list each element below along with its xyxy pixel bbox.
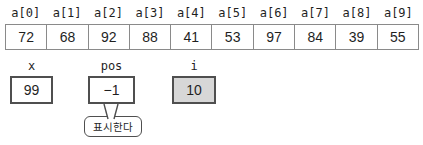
array-index-labels: a[0] a[1] a[2] a[3] a[4] a[5] a[6] a[7] … [5, 5, 419, 21]
variable-box-pos: −1 [88, 76, 135, 104]
array-index-label: a[6] [253, 5, 294, 21]
variable-label-i: i [172, 59, 216, 74]
array-cell: 97 [253, 25, 294, 49]
array-index-label: a[5] [212, 5, 253, 21]
callout-tail [99, 104, 123, 120]
array-cell: 53 [211, 25, 252, 49]
variable-value-i: 10 [186, 82, 202, 98]
array-index-label: a[9] [378, 5, 419, 21]
array-cell: 41 [170, 25, 211, 49]
array-cell: 92 [88, 25, 129, 49]
callout-text: 표시한다 [93, 119, 133, 134]
array-cell: 55 [377, 25, 418, 49]
array-cell: 84 [294, 25, 335, 49]
array-index-label: a[3] [129, 5, 170, 21]
variable-label-x: x [10, 59, 53, 74]
array-cell: 39 [335, 25, 376, 49]
array-search-diagram: a[0] a[1] a[2] a[3] a[4] a[5] a[6] a[7] … [0, 0, 423, 145]
variable-box-i: 10 [172, 76, 216, 104]
array-cell: 72 [6, 25, 46, 49]
variable-box-x: 99 [10, 76, 53, 104]
variable-value-pos: −1 [104, 82, 120, 98]
array-index-label: a[2] [88, 5, 129, 21]
array-index-label: a[8] [336, 5, 377, 21]
array-index-label: a[4] [171, 5, 212, 21]
array-cell: 68 [46, 25, 87, 49]
array-index-label: a[1] [46, 5, 87, 21]
array-index-label: a[0] [5, 5, 46, 21]
array-cells: 72 68 92 88 41 53 97 84 39 55 [5, 24, 419, 50]
variable-value-x: 99 [24, 82, 40, 98]
array-cell: 88 [129, 25, 170, 49]
array-index-label: a[7] [295, 5, 336, 21]
variable-label-pos: pos [88, 59, 135, 74]
